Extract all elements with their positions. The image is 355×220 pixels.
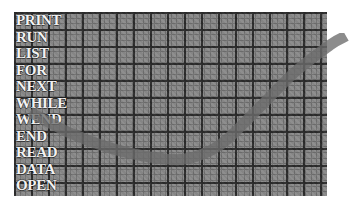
margin-right [327, 80, 355, 220]
list-item[interactable]: READ [16, 144, 78, 161]
list-item[interactable]: END [16, 128, 78, 145]
list-item[interactable]: LIST [16, 45, 78, 62]
screenshot-canvas: PRINT RUN LIST FOR NEXT WHILE WEND END R… [0, 0, 355, 220]
margin-bottom [0, 196, 355, 220]
basic-keyword-list: PRINT RUN LIST FOR NEXT WHILE WEND END R… [16, 12, 78, 194]
list-item[interactable]: PRINT [16, 12, 78, 29]
list-item[interactable]: DATA [16, 161, 78, 178]
margin-top [0, 0, 355, 12]
list-item[interactable]: NEXT [16, 78, 78, 95]
margin-top-right [327, 0, 355, 33]
list-item[interactable]: FOR [16, 62, 78, 79]
margin-left [0, 0, 14, 220]
list-item[interactable]: RUN [16, 29, 78, 46]
list-item[interactable]: OPEN [16, 177, 78, 194]
list-item[interactable]: WEND [16, 111, 78, 128]
list-item[interactable]: WHILE [16, 95, 78, 112]
